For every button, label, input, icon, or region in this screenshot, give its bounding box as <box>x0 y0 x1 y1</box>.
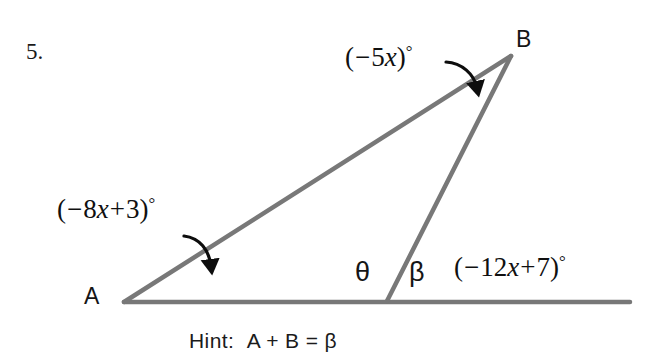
angle-exterior-degree: ° <box>559 252 566 271</box>
hint-equation: A + B = β <box>247 329 337 352</box>
angle-label-exterior: (−12x+7)° <box>454 254 566 281</box>
angle-exterior-coefficient: 12 <box>480 252 507 282</box>
vertex-label-a: A <box>84 285 99 308</box>
hint-prefix: Hint: <box>189 329 234 352</box>
angle-b-minus: − <box>354 42 371 72</box>
angle-exterior-plus: + <box>519 252 536 282</box>
worksheet-page: 5. (−5x)° B (−8x+3)° A θ β (−12x+7)° Hin… <box>0 0 664 359</box>
angle-b-degree: ° <box>406 42 413 61</box>
angle-exterior-constant: 7 <box>536 252 550 282</box>
angle-a-constant: 3 <box>126 194 140 224</box>
angle-a-minus: − <box>66 194 83 224</box>
angle-b-variable: x <box>385 42 397 72</box>
angle-label-a: (−8x+3)° <box>57 196 155 223</box>
angle-exterior-minus: − <box>463 252 480 282</box>
angle-a-coefficient: 8 <box>83 194 97 224</box>
angle-b-coefficient: 5 <box>371 42 385 72</box>
angle-exterior-variable: x <box>507 252 519 282</box>
vertex-label-b: B <box>516 28 531 51</box>
geometry-figure <box>0 0 664 359</box>
angle-a-degree: ° <box>148 194 155 213</box>
angle-b-open-paren: ( <box>345 42 354 72</box>
angle-label-beta: β <box>409 259 425 286</box>
angle-label-theta: θ <box>355 259 370 286</box>
angle-a-variable: x <box>97 194 109 224</box>
angle-a-plus: + <box>109 194 126 224</box>
angle-a-open-paren: ( <box>57 194 66 224</box>
angle-exterior-open-paren: ( <box>454 252 463 282</box>
hint-text: Hint: A + B = β <box>189 330 337 351</box>
problem-number: 5. <box>26 40 43 63</box>
angle-label-b: (−5x)° <box>345 44 412 71</box>
angle-exterior-close-paren: ) <box>550 252 559 282</box>
arrow-to-angle-b <box>446 62 477 88</box>
side-line-a-b <box>124 56 511 302</box>
angle-b-close-paren: ) <box>397 42 406 72</box>
